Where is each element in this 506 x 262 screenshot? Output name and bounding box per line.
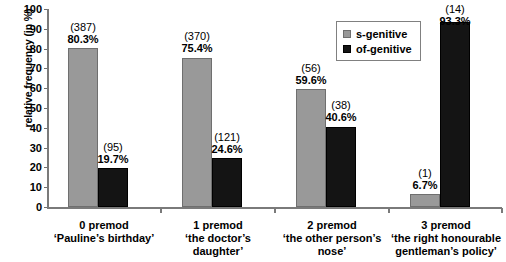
x-example-label: ‘the other person’s nose’ bbox=[275, 232, 389, 258]
x-category-label: 2 premod bbox=[275, 219, 389, 232]
y-tick-label: 80 bbox=[16, 43, 42, 54]
x-axis-label-3-premod: 3 premod ‘the right honourable gentleman… bbox=[389, 219, 503, 258]
x-example-label: ‘Pauline’s birthday’ bbox=[47, 232, 161, 245]
count-label: (387) bbox=[44, 21, 122, 33]
plot-area: (387) 80.3% (95) 19.7% (370) 75.4% (121)… bbox=[48, 9, 502, 207]
count-label: (1) bbox=[386, 167, 464, 179]
bar-of-genitive-1-premod[interactable] bbox=[212, 158, 242, 207]
legend-item-s-genitive[interactable]: s-genitive bbox=[343, 26, 412, 41]
x-axis-separator bbox=[274, 208, 276, 213]
percent-label: 75.4% bbox=[158, 42, 236, 54]
bar-s-genitive-3-premod[interactable] bbox=[410, 194, 440, 207]
x-axis-separator bbox=[160, 208, 162, 213]
count-label: (95) bbox=[74, 141, 152, 153]
y-tick-label: 90 bbox=[16, 23, 42, 34]
value-label-s-genitive-3-premod: (1) 6.7% bbox=[386, 167, 464, 192]
value-label-of-genitive-3-premod: (14) 93.3% bbox=[416, 3, 494, 28]
bar-chart: relative frequency (in %) 100 90 80 70 6… bbox=[0, 0, 506, 262]
bar-of-genitive-0-premod[interactable] bbox=[98, 168, 128, 207]
percent-label: 6.7% bbox=[386, 179, 464, 191]
value-label-s-genitive-2-premod: (56) 59.6% bbox=[272, 62, 350, 87]
legend-swatch-icon bbox=[343, 30, 351, 38]
legend: s-genitive of-genitive bbox=[336, 21, 421, 61]
x-example-label: ‘the doctor’s daughter’ bbox=[161, 232, 275, 258]
y-tick-label: 10 bbox=[16, 182, 42, 193]
percent-label: 80.3% bbox=[44, 33, 122, 45]
legend-label: of-genitive bbox=[356, 43, 412, 55]
value-label-of-genitive-2-premod: (38) 40.6% bbox=[302, 99, 380, 124]
y-tick-label: 30 bbox=[16, 142, 42, 153]
y-tick-label: 50 bbox=[16, 103, 42, 114]
count-label: (56) bbox=[272, 62, 350, 74]
percent-label: 40.6% bbox=[302, 111, 380, 123]
percent-label: 59.6% bbox=[272, 74, 350, 86]
x-axis-separator bbox=[388, 208, 390, 213]
value-label-of-genitive-0-premod: (95) 19.7% bbox=[74, 141, 152, 166]
percent-label: 19.7% bbox=[74, 153, 152, 165]
y-tick-label: 40 bbox=[16, 122, 42, 133]
value-label-s-genitive-0-premod: (387) 80.3% bbox=[44, 21, 122, 46]
x-axis-separator bbox=[501, 208, 503, 213]
legend-label: s-genitive bbox=[356, 28, 407, 40]
legend-swatch-icon bbox=[343, 45, 351, 53]
percent-label: 24.6% bbox=[188, 143, 266, 155]
y-axis-ticks: 100 90 80 70 60 50 40 30 20 10 0 bbox=[16, 9, 42, 207]
value-label-s-genitive-1-premod: (370) 75.4% bbox=[158, 30, 236, 55]
y-tick-label: 70 bbox=[16, 63, 42, 74]
bar-s-genitive-0-premod[interactable] bbox=[68, 48, 98, 207]
y-tick-label: 60 bbox=[16, 83, 42, 94]
y-tick-label: 20 bbox=[16, 162, 42, 173]
bar-of-genitive-2-premod[interactable] bbox=[326, 127, 356, 207]
count-label: (121) bbox=[188, 131, 266, 143]
x-axis-label-1-premod: 1 premod ‘the doctor’s daughter’ bbox=[161, 219, 275, 258]
y-tick-label: 0 bbox=[16, 202, 42, 213]
count-label: (370) bbox=[158, 30, 236, 42]
count-label: (14) bbox=[416, 3, 494, 15]
legend-item-of-genitive[interactable]: of-genitive bbox=[343, 41, 412, 56]
percent-label: 93.3% bbox=[416, 15, 494, 27]
y-tick-label: 100 bbox=[16, 4, 42, 15]
x-axis-label-0-premod: 0 premod ‘Pauline’s birthday’ bbox=[47, 219, 161, 245]
value-label-of-genitive-1-premod: (121) 24.6% bbox=[188, 131, 266, 156]
count-label: (38) bbox=[302, 99, 380, 111]
x-category-label: 1 premod bbox=[161, 219, 275, 232]
x-example-label: ‘the right honourable gentleman’s policy… bbox=[389, 232, 503, 258]
x-axis-label-2-premod: 2 premod ‘the other person’s nose’ bbox=[275, 219, 389, 258]
x-category-label: 0 premod bbox=[47, 219, 161, 232]
x-category-label: 3 premod bbox=[389, 219, 503, 232]
